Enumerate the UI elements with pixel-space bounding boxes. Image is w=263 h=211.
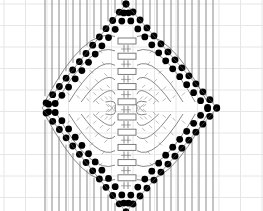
yarn-over-dot bbox=[127, 18, 134, 25]
yarn-over-dot bbox=[85, 150, 92, 157]
yarn-over-dot bbox=[176, 136, 183, 143]
tick-mark bbox=[86, 126, 89, 129]
tick-mark bbox=[170, 81, 173, 84]
yarn-over-dot bbox=[155, 49, 162, 56]
tick-mark bbox=[105, 116, 108, 119]
yarn-over-dot bbox=[148, 168, 155, 175]
yarn-over-dot bbox=[183, 128, 190, 135]
tick-mark bbox=[149, 125, 152, 128]
tick-mark bbox=[93, 121, 96, 124]
tick-mark bbox=[107, 128, 110, 131]
tick-mark bbox=[86, 98, 89, 101]
tick-mark bbox=[144, 97, 147, 100]
yarn-over-dot bbox=[169, 144, 176, 151]
yarn-over-dot bbox=[197, 97, 204, 104]
tick-mark bbox=[107, 85, 110, 88]
yarn-over-dot bbox=[183, 81, 190, 88]
yarn-over-dot bbox=[99, 167, 106, 174]
cable-symbol bbox=[118, 99, 136, 105]
border-line bbox=[42, 4, 126, 108]
cable-symbol bbox=[118, 144, 136, 150]
yarn-over-dot bbox=[65, 125, 72, 132]
tick-mark bbox=[163, 126, 166, 129]
tick-mark bbox=[100, 98, 103, 101]
yarn-over-dot bbox=[118, 18, 125, 25]
tick-mark bbox=[140, 96, 143, 99]
arc-stitch bbox=[81, 114, 115, 139]
cable-symbol bbox=[118, 175, 136, 181]
arc-stitch bbox=[137, 114, 171, 139]
yarn-over-dot bbox=[52, 100, 59, 107]
cable-symbol bbox=[118, 53, 136, 59]
tick-mark bbox=[156, 121, 159, 124]
cable-symbol bbox=[118, 84, 136, 90]
cable-symbol bbox=[118, 129, 136, 135]
cable-symbol bbox=[118, 114, 136, 120]
lace-chart bbox=[0, 0, 263, 211]
tick-mark bbox=[149, 115, 152, 118]
yarn-over-dot bbox=[141, 176, 148, 183]
tick-mark bbox=[142, 85, 145, 88]
tick-mark bbox=[163, 87, 166, 90]
yarn-over-dot bbox=[79, 142, 86, 149]
tick-mark bbox=[77, 95, 80, 98]
tick-mark bbox=[182, 121, 185, 124]
yarn-over-dot bbox=[72, 75, 79, 82]
tick-mark bbox=[142, 128, 145, 131]
tick-mark bbox=[140, 117, 143, 120]
yarn-over-dot bbox=[105, 175, 112, 182]
yarn-over-dot bbox=[92, 51, 99, 58]
yarn-over-dot bbox=[162, 152, 169, 159]
tick-mark bbox=[163, 98, 166, 101]
tick-mark bbox=[105, 97, 108, 100]
cable-symbol bbox=[118, 68, 136, 74]
yarn-over-dot bbox=[105, 34, 112, 41]
tick-mark bbox=[100, 115, 103, 118]
yarn-over-dot bbox=[169, 65, 176, 72]
tick-mark bbox=[144, 116, 147, 119]
tick-mark bbox=[95, 79, 98, 82]
yarn-over-dot bbox=[176, 73, 183, 80]
yarn-over-dot bbox=[204, 104, 211, 111]
tick-mark bbox=[100, 125, 103, 128]
cable-symbol bbox=[118, 38, 136, 44]
yarn-over-dot bbox=[52, 109, 59, 116]
arc-stitch bbox=[137, 114, 159, 125]
tick-mark bbox=[145, 140, 148, 143]
tick-mark bbox=[149, 98, 152, 101]
tick-mark bbox=[93, 92, 96, 95]
yarn-over-dot bbox=[127, 192, 134, 199]
tick-mark bbox=[172, 95, 175, 98]
tick-mark bbox=[86, 87, 89, 90]
tick-mark bbox=[163, 115, 166, 118]
tick-mark bbox=[182, 92, 185, 95]
yarn-over-dot bbox=[112, 26, 119, 33]
tick-mark bbox=[96, 112, 99, 115]
cable-symbol bbox=[118, 160, 136, 166]
yarn-over-dot bbox=[134, 184, 141, 191]
tick-mark bbox=[77, 118, 80, 121]
yarn-over-dot bbox=[45, 101, 52, 108]
yarn-over-dot bbox=[190, 89, 197, 96]
yarn-over-dot bbox=[85, 59, 92, 66]
yarn-over-dot bbox=[190, 120, 197, 127]
yarn-over-dot bbox=[65, 84, 72, 91]
yarn-over-dot bbox=[118, 192, 125, 199]
yarn-over-dot bbox=[99, 42, 106, 49]
tick-mark bbox=[96, 101, 99, 104]
yarn-over-dot bbox=[72, 134, 79, 141]
yarn-over-dot bbox=[120, 200, 127, 207]
yarn-over-dot bbox=[141, 34, 148, 41]
arc-stitch bbox=[137, 91, 159, 102]
tick-mark bbox=[95, 134, 98, 137]
yarn-over-dot bbox=[162, 57, 169, 64]
yarn-over-dot bbox=[92, 159, 99, 166]
chart-canvas bbox=[0, 0, 263, 211]
tick-mark bbox=[172, 118, 175, 121]
yarn-over-dot bbox=[120, 10, 127, 17]
yarn-over-dot bbox=[134, 26, 141, 33]
tick-mark bbox=[145, 73, 148, 76]
yarn-over-dot bbox=[155, 160, 162, 167]
yarn-over-dot bbox=[112, 183, 119, 190]
tick-mark bbox=[104, 140, 107, 143]
